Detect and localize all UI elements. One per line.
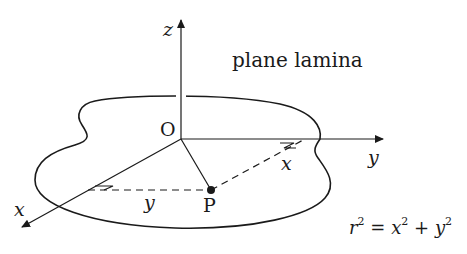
x-axis-label: x [14,200,25,219]
point-p-dot [207,186,215,194]
y-distance-label: y [144,193,155,212]
eq-r-exp: 2 [358,215,365,228]
origin-label: O [160,120,176,139]
eq-equals: = [370,217,385,238]
x-distance-label: x [281,154,292,173]
y-axis-label: y [368,148,379,167]
x-axis [22,139,181,227]
eq-y-exp: 2 [445,215,452,228]
z-axis-label: z [163,20,173,39]
right-angle-mark-x [280,143,296,148]
eq-x: x [391,217,401,238]
point-p-label: P [203,196,216,215]
lamina-diagram [0,0,467,254]
diagram-title: plane lamina [232,50,363,70]
eq-y: y [435,217,445,238]
eq-x-exp: 2 [401,215,408,228]
radius-line [181,139,211,190]
eq-plus: + [414,217,429,238]
radius-equation: r2 = x2 + y2 [349,218,452,237]
eq-r: r [349,217,358,238]
right-angle-mark-y [95,186,113,190]
